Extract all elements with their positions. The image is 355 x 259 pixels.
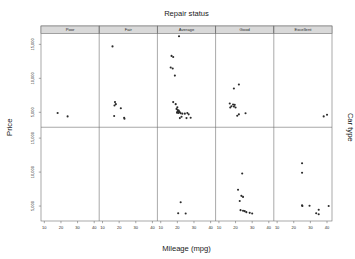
panel-excellent-row1	[301, 162, 330, 215]
x-tick-label: 30	[75, 225, 80, 230]
x-tick-label: 10	[100, 225, 105, 230]
data-point	[236, 115, 238, 117]
data-point	[175, 103, 177, 105]
data-point	[180, 116, 182, 118]
data-point	[177, 112, 179, 114]
right-axis-title: Car type	[346, 113, 355, 142]
data-point	[328, 205, 330, 207]
data-point	[244, 112, 246, 114]
x-tick-label: 30	[250, 225, 255, 230]
data-point	[172, 101, 174, 103]
y-tick-label: 10,000	[31, 165, 36, 178]
strip-label-fair: Fair	[125, 27, 133, 32]
strip-label-average: Average	[179, 27, 195, 32]
chart-title: Repair status	[164, 9, 209, 18]
data-point	[318, 209, 320, 211]
data-point	[123, 118, 125, 120]
y-tick-label: 15,000	[31, 131, 36, 144]
strip-label-excellent: Excellent	[294, 27, 312, 32]
x-tick-label: 10	[217, 225, 222, 230]
data-point	[177, 212, 179, 214]
trellis-scatter-plot: Repair statusPriceMileage (mpg)Car typeP…	[0, 0, 355, 259]
data-point	[174, 75, 176, 77]
x-tick-label: 40	[267, 225, 272, 230]
data-point	[185, 212, 187, 214]
plot-frame	[41, 26, 332, 221]
x-tick-label: 10	[275, 225, 280, 230]
data-point	[185, 117, 187, 119]
data-point	[188, 113, 190, 115]
data-point	[242, 196, 244, 198]
x-axis-title: Mileage (mpg)	[162, 244, 211, 253]
data-point	[233, 87, 235, 89]
data-point	[120, 107, 122, 109]
data-point	[301, 172, 303, 174]
data-point	[301, 205, 303, 207]
x-tick-label: 10	[42, 225, 47, 230]
data-point	[229, 102, 231, 104]
panel-good-row0	[229, 83, 247, 116]
data-point	[113, 115, 115, 117]
x-tick-label: 20	[175, 225, 180, 230]
strip-label-poor: Poor	[66, 27, 75, 32]
panel-average-row0	[170, 35, 192, 119]
data-point	[249, 212, 251, 214]
x-tick-label: 40	[150, 225, 155, 230]
data-point	[170, 66, 172, 68]
x-tick-label: 20	[59, 225, 64, 230]
panel-poor-row0	[57, 112, 69, 117]
panel-fair-row0	[111, 45, 125, 119]
panel-average-row1	[177, 201, 187, 214]
data-point	[237, 189, 239, 191]
x-tick-label: 20	[117, 225, 122, 230]
x-tick-label: 30	[308, 225, 313, 230]
data-point	[245, 211, 247, 213]
data-point	[251, 212, 253, 214]
data-point	[114, 101, 116, 103]
data-point	[323, 115, 325, 117]
x-tick-label: 40	[208, 225, 213, 230]
y-tick-label: 5,000	[31, 200, 36, 211]
data-point	[184, 113, 186, 115]
data-point	[181, 113, 183, 115]
strip-label-good: Good	[240, 27, 251, 32]
x-tick-label: 40	[325, 225, 330, 230]
x-tick-label: 10	[158, 225, 163, 230]
y-axis-title: Price	[5, 119, 14, 136]
x-tick-label: 40	[92, 225, 97, 230]
x-tick-label: 30	[192, 225, 197, 230]
data-point	[241, 172, 243, 174]
data-point	[318, 213, 320, 215]
data-point	[178, 35, 180, 37]
data-point	[172, 67, 174, 69]
data-point	[179, 117, 181, 119]
data-point	[301, 162, 303, 164]
panel-good-row1	[237, 172, 253, 214]
data-point	[67, 115, 69, 117]
chart-figure: Repair statusPriceMileage (mpg)Car typeP…	[0, 0, 355, 259]
x-tick-label: 20	[233, 225, 238, 230]
y-tick-label: 5,000	[31, 107, 36, 118]
data-point	[309, 205, 311, 207]
data-point	[172, 56, 174, 58]
data-point	[238, 113, 240, 115]
data-point	[180, 201, 182, 203]
x-tick-label: 20	[292, 225, 297, 230]
x-tick-label: 30	[134, 225, 139, 230]
data-point	[315, 212, 317, 214]
y-tick-label: 15,000	[31, 37, 36, 50]
data-point	[235, 106, 237, 108]
data-point	[229, 106, 231, 108]
y-tick-label: 10,000	[31, 71, 36, 84]
data-point	[326, 114, 328, 116]
data-point	[239, 200, 241, 202]
data-point	[239, 209, 241, 211]
data-point	[238, 83, 240, 85]
data-point	[190, 117, 192, 119]
panel-excellent-row0	[323, 114, 328, 118]
data-point	[111, 45, 113, 47]
data-point	[113, 104, 115, 106]
data-point	[57, 112, 59, 114]
